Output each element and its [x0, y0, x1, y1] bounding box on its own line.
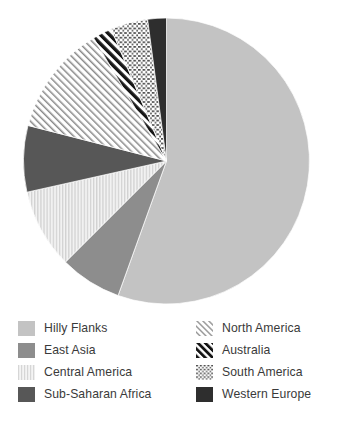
legend-label-south-america: South America: [222, 366, 303, 378]
legend-item-australia[interactable]: Australia: [196, 339, 357, 361]
legend-swatch-north-america: [196, 321, 213, 336]
legend-label-western-europe: Western Europe: [222, 388, 311, 400]
legend-swatch-east-asia: [18, 343, 35, 358]
legend-item-hilly-flanks[interactable]: Hilly Flanks: [0, 317, 196, 339]
legend-item-south-america[interactable]: South America: [196, 361, 357, 383]
legend-swatch-central-america: [18, 365, 35, 380]
legend-swatch-australia: [196, 343, 213, 358]
legend-swatch-south-america: [196, 365, 213, 380]
legend-label-australia: Australia: [222, 344, 270, 356]
pie-chart-figure: Hilly Flanks North America East Asia Aus…: [0, 0, 357, 422]
legend-swatch-sub-saharan-africa: [18, 387, 35, 402]
legend-item-east-asia[interactable]: East Asia: [0, 339, 196, 361]
pie-chart-area: [0, 0, 357, 312]
legend-label-north-america: North America: [222, 322, 301, 334]
legend-label-central-america: Central America: [44, 366, 132, 378]
chart-legend: Hilly Flanks North America East Asia Aus…: [0, 313, 357, 422]
legend-label-sub-saharan-africa: Sub-Saharan Africa: [44, 388, 152, 400]
legend-swatch-hilly-flanks: [18, 321, 35, 336]
legend-item-sub-saharan-africa[interactable]: Sub-Saharan Africa: [0, 383, 196, 405]
legend-item-north-america[interactable]: North America: [196, 317, 357, 339]
legend-item-western-europe[interactable]: Western Europe: [196, 383, 357, 405]
pie-chart-svg: [0, 0, 357, 312]
legend-label-east-asia: East Asia: [44, 344, 96, 356]
legend-swatch-western-europe: [196, 387, 213, 402]
legend-item-central-america[interactable]: Central America: [0, 361, 196, 383]
legend-label-hilly-flanks: Hilly Flanks: [44, 322, 108, 334]
pie-slices: [23, 18, 309, 304]
